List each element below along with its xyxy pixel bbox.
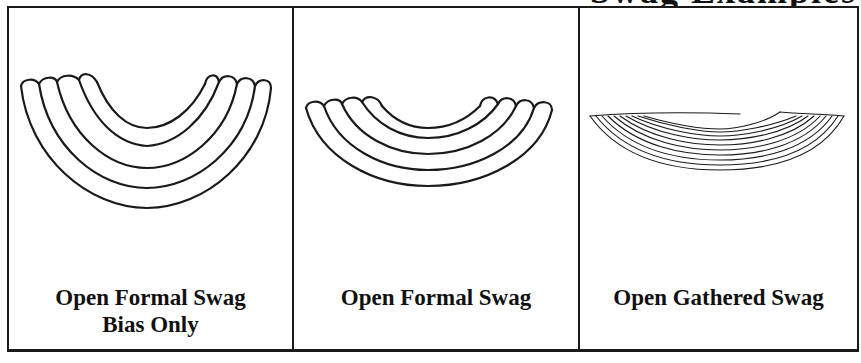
- label-line-1: Open Gathered Swag: [580, 284, 857, 311]
- label-line-1: Open Formal Swag: [294, 284, 578, 311]
- panel-formal-swag: Open Formal Swag: [292, 8, 578, 349]
- label-formal-swag: Open Formal Swag: [294, 284, 578, 311]
- panel-formal-swag-bias: Open Formal Swag Bias Only: [9, 8, 292, 349]
- gathered-swag-icon: [580, 8, 858, 278]
- formal-swag-bias-icon: [9, 8, 292, 278]
- label-formal-swag-bias: Open Formal Swag Bias Only: [9, 284, 292, 338]
- formal-swag-icon: [294, 8, 580, 278]
- swag-comparison-table: Open Formal Swag Bias Only Ope: [7, 6, 859, 352]
- label-line-2: Bias Only: [9, 311, 292, 338]
- label-gathered-swag: Open Gathered Swag: [580, 284, 857, 311]
- label-line-1: Open Formal Swag: [9, 284, 292, 311]
- panel-gathered-swag: Open Gathered Swag: [578, 8, 857, 349]
